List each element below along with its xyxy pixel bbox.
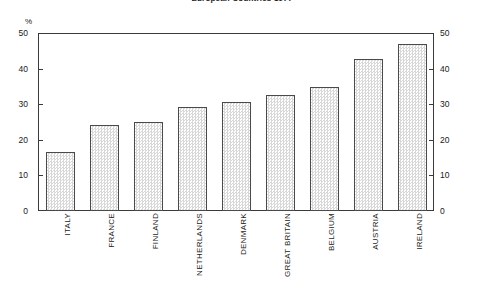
- x-axis-label-belgium: BELGIUM: [327, 213, 336, 251]
- y-axis-tick-label-right-50: 50: [440, 29, 480, 38]
- chart-title: European Countries 1977: [0, 0, 484, 3]
- x-axis-label-denmark: DENMARK: [239, 213, 248, 255]
- bar-series: [38, 33, 434, 211]
- y-axis-tick-label-right-40: 40: [440, 65, 480, 74]
- bar-france: [90, 125, 119, 211]
- bar-denmark: [222, 102, 251, 211]
- bar-austria: [354, 59, 383, 211]
- bar-netherlands: [178, 107, 207, 211]
- y-axis-tick-label-left-0: 0: [0, 207, 28, 216]
- x-axis-label-italy: ITALY: [63, 213, 72, 236]
- y-axis-tick-label-left-10: 10: [0, 171, 28, 180]
- x-axis-label-great-britain: GREAT BRITAIN: [283, 213, 292, 277]
- y-axis-tick-label-right-10: 10: [440, 171, 480, 180]
- y-axis-tick-label-right-20: 20: [440, 136, 480, 145]
- bar-finland: [134, 122, 163, 211]
- bar-italy: [46, 152, 75, 211]
- x-axis-label-finland: FINLAND: [151, 213, 160, 249]
- bar-great-britain: [266, 95, 295, 211]
- y-axis-tick-label-left-40: 40: [0, 65, 28, 74]
- x-axis-label-netherlands: NETHERLANDS: [195, 213, 204, 276]
- y-axis-tick-label-right-0: 0: [440, 207, 480, 216]
- y-axis-unit-label: %: [25, 17, 32, 26]
- y-axis-tick-label-left-50: 50: [0, 29, 28, 38]
- x-axis-label-france: FRANCE: [107, 213, 116, 248]
- y-axis-tick-label-left-20: 20: [0, 136, 28, 145]
- bar-belgium: [310, 87, 339, 211]
- x-axis-category-labels: ITALYFRANCEFINLANDNETHERLANDSDENMARKGREA…: [38, 213, 434, 295]
- bar-ireland: [398, 44, 427, 211]
- y-axis-tick-label-right-30: 30: [440, 100, 480, 109]
- x-axis-label-austria: AUSTRIA: [371, 213, 380, 250]
- x-axis-label-ireland: IRELAND: [415, 213, 424, 250]
- y-axis-tick-label-left-30: 30: [0, 100, 28, 109]
